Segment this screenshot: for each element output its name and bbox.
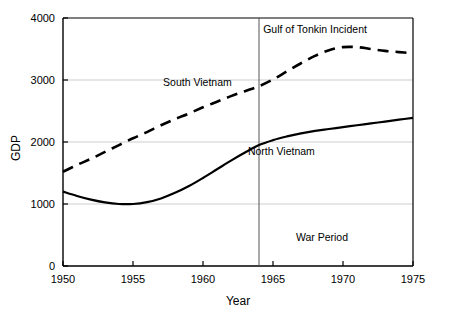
series-label-north-vietnam: North Vietnam: [248, 145, 315, 157]
x-tick-label: 1965: [261, 273, 285, 285]
x-tick-label: 1955: [121, 273, 145, 285]
annotation-war-period: War Period: [296, 231, 348, 243]
y-tick-label: 0: [49, 260, 55, 272]
gdp-line-chart: 195019551960196519701975 010002000300040…: [0, 0, 450, 314]
chart-canvas: 195019551960196519701975 010002000300040…: [0, 0, 450, 314]
x-tick-label: 1950: [51, 273, 75, 285]
y-axis-title: GDP: [9, 135, 23, 161]
y-tick-label: 1000: [31, 198, 55, 210]
x-tick-label: 1960: [191, 273, 215, 285]
x-axis-tick-labels: 195019551960196519701975: [51, 273, 425, 285]
y-axis-tick-labels: 01000200030004000: [31, 12, 55, 272]
x-tick-label: 1970: [331, 273, 355, 285]
y-tick-label: 3000: [31, 74, 55, 86]
x-axis-title: Year: [226, 294, 250, 308]
x-tick-label: 1975: [401, 273, 425, 285]
y-tick-label: 2000: [31, 136, 55, 148]
y-tick-label: 4000: [31, 12, 55, 24]
series-label-south-vietnam: South Vietnam: [163, 76, 232, 88]
annotation-gulf-of-tonkin-marker: Gulf of Tonkin Incident: [263, 23, 367, 35]
